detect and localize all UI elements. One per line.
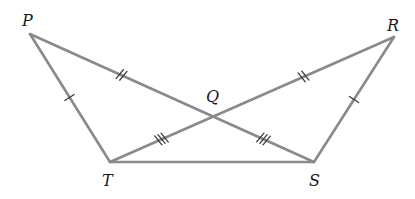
tick-mark-triple-qs [256,131,270,146]
vertex-label-q: Q [206,87,219,106]
segment-ps [30,34,314,162]
vertex-label-t: T [102,171,114,190]
vertex-label-s: S [309,171,320,190]
geometry-diagram: P R Q T S [0,0,415,199]
segment-rt [110,37,394,162]
vertex-label-r: R [386,16,399,35]
vertex-label-p: P [21,11,33,30]
tick-mark-triple-tq [154,131,168,146]
